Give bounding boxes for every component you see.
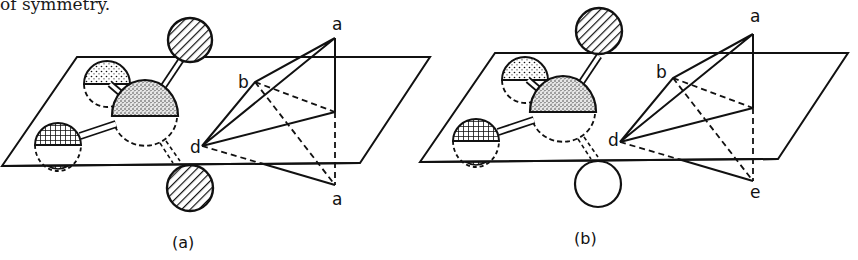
vertex-label-top: a <box>750 6 760 26</box>
molecule-symmetry-diagram: a b d a (a) a b d e (b) <box>0 0 858 260</box>
vertex-label-bottom: a <box>332 189 342 209</box>
bottom-atom-empty <box>575 161 621 207</box>
top-atom-hatched <box>168 18 212 62</box>
panel-caption-a: (a) <box>172 233 194 252</box>
panel-b: a b d e (b) <box>420 6 848 248</box>
vertex-label-top: a <box>332 14 342 34</box>
vertex-label-d: d <box>608 130 619 150</box>
panel-caption-b: (b) <box>574 229 597 248</box>
panel-a: a b d a (a) <box>2 14 430 252</box>
top-atom-hatched <box>576 8 622 54</box>
vertex-label-e: e <box>750 182 760 202</box>
vertex-label-b: b <box>238 72 249 92</box>
bottom-atom-hatched <box>167 165 213 211</box>
vertex-label-d: d <box>190 137 201 157</box>
vertex-label-b: b <box>656 62 667 82</box>
